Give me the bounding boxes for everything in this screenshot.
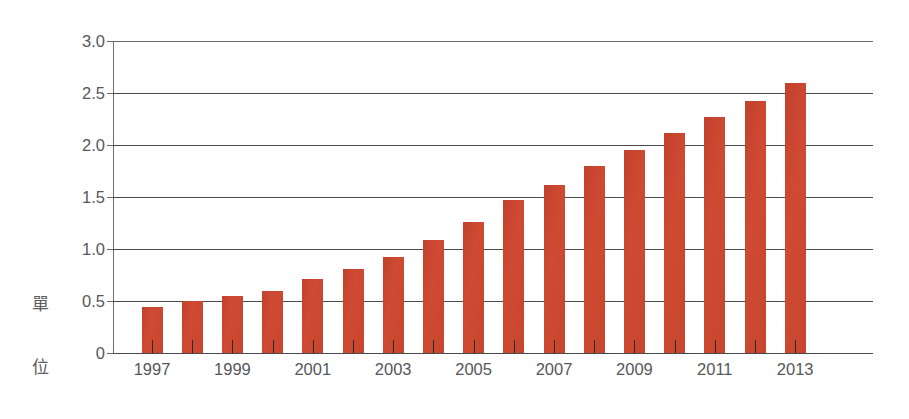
x-axis-tick bbox=[795, 340, 796, 353]
y-tick-label-3-0: 3.0 bbox=[59, 32, 105, 51]
bar-2008 bbox=[584, 166, 605, 353]
x-axis-tick bbox=[433, 340, 434, 353]
x-axis-tick bbox=[634, 340, 635, 353]
x-axis-tick bbox=[514, 340, 515, 353]
gridline-baseline bbox=[113, 353, 873, 354]
x-tick-label-2007: 2007 bbox=[536, 360, 573, 379]
y-tick-label-0-5: 0.5 bbox=[59, 292, 105, 311]
y-axis-unit-char: 位 bbox=[26, 357, 56, 378]
y-tick-label-2-5: 2.5 bbox=[59, 84, 105, 103]
plot-area bbox=[113, 41, 873, 353]
x-axis-tick bbox=[675, 340, 676, 353]
bar-2013 bbox=[785, 83, 806, 353]
y-tick-label-1-5: 1.5 bbox=[59, 188, 105, 207]
bar-2005 bbox=[463, 222, 484, 353]
x-axis-tick bbox=[755, 340, 756, 353]
x-tick-label-2013: 2013 bbox=[777, 360, 814, 379]
x-axis-tick bbox=[232, 340, 233, 353]
x-axis-tick bbox=[152, 340, 153, 353]
x-tick-label-1997: 1997 bbox=[134, 360, 171, 379]
bar-2010 bbox=[664, 133, 685, 353]
x-axis-tick bbox=[313, 340, 314, 353]
bar-2007 bbox=[544, 185, 565, 353]
gridline-2-5 bbox=[113, 93, 873, 94]
y-axis-tick-labels: 3.0 2.5 2.0 1.5 1.0 0.5 0 bbox=[55, 41, 105, 353]
x-tick-label-2005: 2005 bbox=[455, 360, 492, 379]
y-tick-label-0: 0 bbox=[59, 344, 105, 363]
bar-chart: 單 位 ： 美 元 3.0 2.5 2.0 1.5 1.0 0.5 0 1997… bbox=[0, 0, 909, 419]
x-axis-tick bbox=[192, 340, 193, 353]
x-axis-tick bbox=[474, 340, 475, 353]
bar-2009 bbox=[624, 150, 645, 353]
bar-2003 bbox=[383, 257, 404, 353]
x-tick-label-2009: 2009 bbox=[616, 360, 653, 379]
x-axis-tick-labels: 199719992001200320052007200920112013 bbox=[113, 360, 873, 390]
y-tick-label-2-0: 2.0 bbox=[59, 136, 105, 155]
y-tick-label-1-0: 1.0 bbox=[59, 240, 105, 259]
bar-2011 bbox=[704, 117, 725, 353]
y-axis-tick bbox=[107, 41, 113, 42]
y-axis-tick bbox=[107, 93, 113, 94]
x-axis-tick bbox=[393, 340, 394, 353]
y-axis-tick bbox=[107, 249, 113, 250]
bar-2006 bbox=[503, 200, 524, 353]
x-axis-tick bbox=[273, 340, 274, 353]
y-axis-unit-char: 單 bbox=[26, 294, 56, 315]
x-tick-label-2011: 2011 bbox=[697, 360, 732, 379]
y-axis-tick bbox=[107, 145, 113, 146]
x-axis-tick bbox=[715, 340, 716, 353]
bar-2004 bbox=[423, 240, 444, 353]
x-tick-label-2001: 2001 bbox=[294, 360, 331, 379]
x-tick-label-1999: 1999 bbox=[214, 360, 251, 379]
x-tick-label-2003: 2003 bbox=[375, 360, 412, 379]
x-axis-tick bbox=[554, 340, 555, 353]
y-axis-tick bbox=[107, 353, 113, 354]
x-axis-tick bbox=[353, 340, 354, 353]
y-axis-tick bbox=[107, 197, 113, 198]
gridline-3-0 bbox=[113, 41, 873, 42]
bar-2012 bbox=[745, 101, 766, 353]
y-axis-unit-label: 單 位 ： 美 元 bbox=[26, 252, 56, 419]
x-axis-tick bbox=[594, 340, 595, 353]
y-axis-tick bbox=[107, 301, 113, 302]
